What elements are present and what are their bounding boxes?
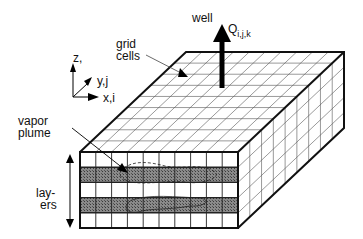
axes-icon	[70, 63, 99, 101]
grid-cells-label-line2: cells	[116, 49, 140, 63]
reservoir-grid-diagram: well Qi,j,k grid cells z, y,j x,i vapor …	[0, 0, 363, 239]
axis-y-label: y,j	[97, 74, 108, 88]
layers-label-line2: ers	[40, 198, 57, 212]
flow-label: Qi,j,k	[228, 22, 251, 39]
axis-z-label: z,	[73, 51, 82, 65]
front-face	[80, 152, 238, 228]
axis-x-label: x,i	[103, 91, 115, 105]
layers-double-arrow-icon	[66, 154, 74, 228]
well-label: well	[191, 11, 213, 25]
vapor-plume-label-line2: plume	[18, 126, 51, 140]
